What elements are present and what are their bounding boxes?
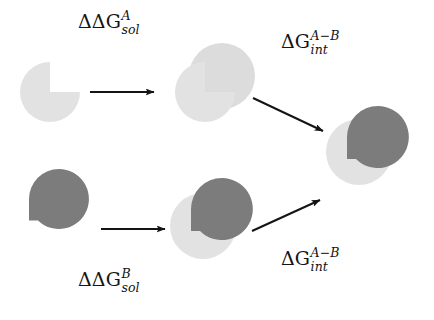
label-ddg-sol-A-base: ΔΔG bbox=[78, 10, 121, 32]
molecule-A-complex bbox=[175, 43, 255, 122]
label-ddg-sol-A: ΔΔGAsol bbox=[78, 12, 121, 31]
label-ddg-sol-B-base: ΔΔG bbox=[78, 268, 121, 290]
thermodynamic-cycle-figure: ΔΔGAsol ΔGA−Bint ΔΔGBsol ΔGA−Bint bbox=[0, 0, 434, 320]
label-dg-int-top: ΔGA−Bint bbox=[281, 32, 310, 51]
molecule-B-complex bbox=[170, 178, 253, 259]
molecule-A-free bbox=[20, 62, 80, 122]
label-dg-int-top-superscript: A−B bbox=[311, 30, 340, 43]
ligand-B-free-body bbox=[29, 169, 89, 229]
label-dg-int-top-base: ΔG bbox=[281, 30, 310, 52]
label-dg-int-top-subscript: int bbox=[311, 44, 328, 57]
molecule-bound-complex bbox=[326, 106, 409, 185]
arrow-top-diagonal bbox=[253, 98, 323, 131]
label-ddg-sol-A-subscript: sol bbox=[121, 24, 139, 37]
label-dg-int-bottom: ΔGA−Bint bbox=[281, 249, 310, 268]
label-dg-int-bottom-superscript: A−B bbox=[311, 247, 340, 260]
ligand-A-free-body bbox=[20, 62, 80, 122]
label-ddg-sol-B-subscript: sol bbox=[121, 282, 139, 295]
ligand-bound-final-body bbox=[347, 106, 409, 168]
ligand-B-bound-body bbox=[191, 178, 253, 240]
diagram-canvas bbox=[0, 0, 434, 320]
label-ddg-sol-A-superscript: A bbox=[121, 10, 130, 23]
label-dg-int-bottom-subscript: int bbox=[311, 261, 328, 274]
label-ddg-sol-B-superscript: B bbox=[121, 268, 130, 281]
label-ddg-sol-B: ΔΔGBsol bbox=[78, 270, 121, 289]
molecule-B-free bbox=[29, 169, 89, 229]
arrow-bottom-diagonal bbox=[252, 200, 320, 231]
label-dg-int-bottom-base: ΔG bbox=[281, 247, 310, 269]
